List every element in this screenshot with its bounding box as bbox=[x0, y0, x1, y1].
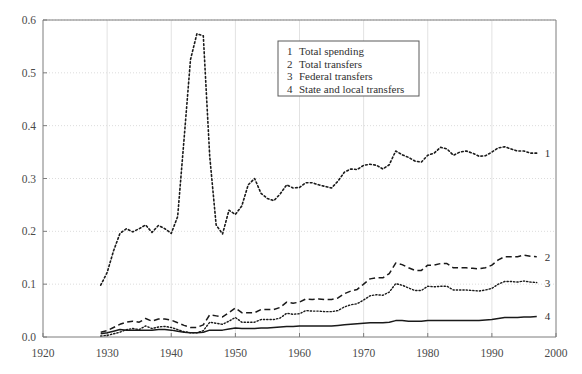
legend-item-number-1: 1 bbox=[287, 45, 293, 57]
legend-item-number-3: 3 bbox=[287, 70, 293, 82]
x-axis-tick-label: 1990 bbox=[480, 347, 503, 359]
x-axis-tick-label: 2000 bbox=[545, 347, 568, 359]
y-axis-tick-label: 0.0 bbox=[22, 331, 37, 343]
x-axis-tick-label: 1930 bbox=[96, 347, 119, 359]
x-axis-tick-label: 1970 bbox=[352, 347, 375, 359]
legend-item-number-2: 2 bbox=[287, 58, 293, 70]
series-end-label-4: 4 bbox=[545, 310, 551, 322]
x-axis-tick-label: 1960 bbox=[288, 347, 311, 359]
legend-item-label-1: Total spending bbox=[299, 45, 364, 57]
y-axis-tick-label: 0.3 bbox=[22, 173, 37, 185]
x-axis-tick-label: 1950 bbox=[224, 347, 247, 359]
legend-item-label-3: Federal transfers bbox=[299, 70, 373, 82]
series-end-label-1: 1 bbox=[545, 147, 551, 159]
end-label-layer: 1234 bbox=[545, 147, 551, 322]
y-axis-tick-label: 0.6 bbox=[22, 14, 37, 26]
series-end-label-2: 2 bbox=[545, 251, 551, 263]
legend-layer: 1Total spending2Total transfers3Federal … bbox=[278, 41, 419, 96]
y-axis-tick-label: 0.4 bbox=[22, 120, 37, 132]
series-line-3 bbox=[101, 281, 537, 336]
y-axis-tick-label: 0.5 bbox=[22, 67, 37, 79]
legend-item-label-2: Total transfers bbox=[299, 58, 362, 70]
legend-item-number-4: 4 bbox=[287, 83, 293, 95]
y-axis-tick-label: 0.2 bbox=[22, 225, 37, 237]
legend-item-label-4: State and local transfers bbox=[299, 83, 404, 95]
chart-page: 0.00.10.20.30.40.50.61920193019401950196… bbox=[0, 0, 582, 374]
line-chart: 0.00.10.20.30.40.50.61920193019401950196… bbox=[0, 0, 582, 374]
x-axis-tick-label: 1920 bbox=[32, 347, 55, 359]
y-axis-tick-label: 0.1 bbox=[22, 278, 37, 290]
x-axis-tick-label: 1940 bbox=[160, 347, 183, 359]
x-axis-tick-label: 1980 bbox=[416, 347, 439, 359]
series-end-label-3: 3 bbox=[545, 277, 551, 289]
